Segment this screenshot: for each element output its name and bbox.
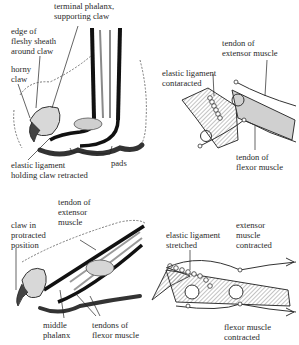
label-elastic-ligament-stretched: elastic ligament stretched	[166, 230, 220, 250]
protracted-schematic-illustration	[152, 250, 296, 316]
label-pads: pads	[111, 158, 127, 168]
label-middle-phalanx: middle phalanx	[43, 320, 70, 340]
label-elastic-ligament-retracted: elastic ligament holding claw retracted	[11, 160, 88, 180]
label-horny-claw: horny claw	[11, 64, 31, 84]
label-extensor-contracted: extensor muscle contracted	[236, 220, 272, 250]
label-terminal-phalanx: terminal phalanx, supporting claw	[54, 1, 114, 21]
label-tendon-extensor: tendon of extensor muscle	[222, 38, 278, 58]
label-edge-of-sheath: edge of fleshy sheath around claw	[11, 26, 56, 56]
label-tendon-flexor: tendon of flexor muscle	[236, 152, 283, 172]
label-claw-protracted: claw in protracted position	[11, 220, 46, 250]
label-flexor-contracted: flexor muscle contracted	[224, 322, 271, 342]
label-tendons-flexor: tendons of flexor muscle	[92, 320, 139, 340]
label-elastic-ligament-contracted: elastic ligament contaracted	[162, 68, 216, 88]
label-tendon-extensor-muscle: tendon of extensor muscle	[58, 197, 91, 227]
